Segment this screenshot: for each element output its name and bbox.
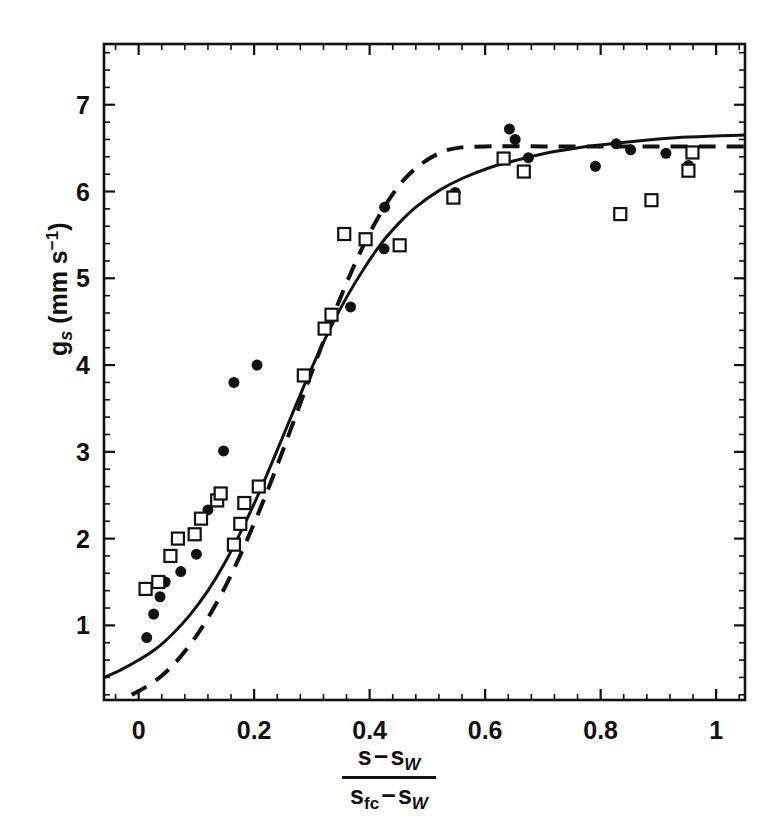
fraction-bar: [342, 776, 436, 779]
data-point-open-square: [686, 146, 698, 158]
data-point-open-square: [228, 539, 240, 551]
data-point-open-square: [234, 518, 246, 530]
data-point-open-square: [298, 369, 310, 381]
y-axis-title-unit-exponent: −1: [43, 231, 62, 250]
data-point-filled-circle: [191, 549, 202, 560]
denominator-subscript-fc: fc: [364, 794, 379, 813]
data-point-filled-circle: [155, 591, 166, 602]
data-point-open-square: [645, 194, 657, 206]
y-axis-title-unit-open: (mm s: [44, 250, 72, 331]
solid-model-curve: [104, 135, 745, 677]
data-point-filled-circle: [218, 445, 229, 456]
data-point-filled-circle: [379, 202, 390, 213]
data-point-filled-circle: [625, 144, 636, 155]
numerator-s: s: [358, 742, 372, 770]
data-point-open-square: [394, 239, 406, 251]
x-axis-title-fraction: s − sW sfc − sW: [342, 742, 436, 813]
dashed-model-curve: [132, 146, 745, 695]
data-point-open-square: [189, 528, 201, 540]
denominator-minus: −: [381, 781, 396, 809]
x-axis-title: s − sW sfc − sW: [0, 742, 778, 813]
numerator-subscript-w: W: [404, 755, 420, 774]
data-point-open-square: [195, 513, 207, 525]
model-curves: [104, 135, 745, 695]
data-point-open-square: [140, 583, 152, 595]
data-point-filled-circle: [141, 632, 152, 643]
y-axis-title: gs (mm s−1): [43, 169, 78, 409]
y-axis-title-unit-close: ): [44, 222, 72, 230]
x-tick-label: 0.4: [352, 716, 387, 745]
data-point-filled-circle: [523, 152, 534, 163]
data-point-open-square: [338, 228, 350, 240]
data-point-open-square: [326, 309, 338, 321]
data-point-open-square: [682, 165, 694, 177]
data-point-open-square: [152, 576, 164, 588]
data-point-open-square: [253, 481, 265, 493]
y-tick-label: 2: [58, 524, 90, 553]
data-point-filled-circle: [175, 566, 186, 577]
data-point-filled-circle: [611, 138, 622, 149]
figure-panel: 00.20.40.60.81 1234567 gs (mm s−1) s − s…: [0, 0, 778, 837]
data-point-filled-circle: [660, 148, 671, 159]
y-tick-label: 7: [58, 90, 90, 119]
fraction-denominator: sfc − sW: [342, 781, 436, 813]
numerator-minus: −: [374, 742, 389, 770]
data-point-open-square: [498, 153, 510, 165]
denominator-subscript-w: W: [412, 794, 428, 813]
data-point-open-square: [319, 323, 331, 335]
fraction-numerator: s − sW: [350, 742, 429, 774]
chart-canvas: [0, 0, 778, 837]
data-point-filled-circle: [504, 124, 515, 135]
data-point-open-square: [447, 192, 459, 204]
data-point-open-square: [172, 533, 184, 545]
x-tick-label: 0.8: [583, 716, 618, 745]
data-point-open-square: [215, 487, 227, 499]
data-point-open-square: [238, 497, 250, 509]
data-point-filled-circle: [510, 134, 521, 145]
data-point-open-square: [614, 208, 626, 220]
y-tick-label: 1: [58, 611, 90, 640]
data-point-filled-circle: [148, 609, 159, 620]
denominator-s-w: s: [398, 781, 412, 809]
data-point-filled-circle: [379, 243, 390, 254]
data-point-open-square: [360, 233, 372, 245]
data-point-open-square: [164, 550, 176, 562]
y-axis-title-symbol: g: [44, 341, 72, 356]
data-point-open-square: [518, 166, 530, 178]
x-tick-label: 0.6: [468, 716, 503, 745]
denominator-s: s: [350, 781, 364, 809]
data-point-filled-circle: [590, 161, 601, 172]
numerator-s-w: s: [390, 742, 404, 770]
data-point-filled-circle: [345, 301, 356, 312]
data-point-filled-circle: [228, 377, 239, 388]
y-axis-title-subscript: s: [56, 331, 76, 341]
x-tick-label: 0.2: [237, 716, 272, 745]
x-tick-label: 0: [132, 716, 146, 745]
data-point-filled-circle: [252, 360, 263, 371]
x-tick-label: 1: [709, 716, 723, 745]
y-tick-label: 3: [58, 437, 90, 466]
